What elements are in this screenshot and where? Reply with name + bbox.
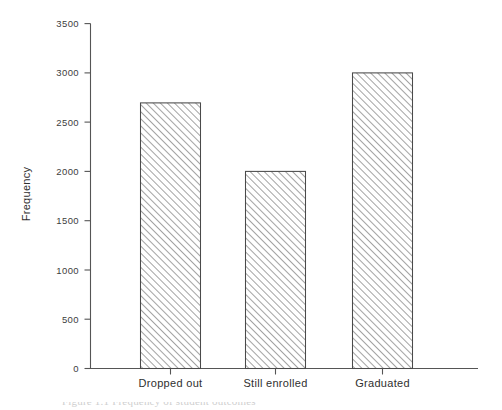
y-axis-ticks	[85, 24, 91, 369]
y-tick-label: 1500	[56, 215, 79, 226]
figure-caption-text: Figure 1.1 Frequency of student outcomes	[62, 402, 256, 407]
figure-caption-clipped: Figure 1.1 Frequency of student outcomes	[0, 402, 502, 410]
y-tick-label: 3500	[56, 18, 79, 29]
y-tick-label: 0	[73, 363, 79, 374]
y-tick-label: 1000	[56, 265, 79, 276]
bar-dropped-out	[141, 103, 201, 369]
x-tick-label: Still enrolled	[243, 377, 307, 389]
y-axis-title: Frequency	[20, 166, 32, 221]
x-axis-ticks	[171, 369, 383, 375]
bar-still-enrolled	[246, 171, 306, 368]
x-tick-label: Graduated	[355, 377, 410, 389]
y-axis-tick-labels: 0 500 1000 1500 2000 2500 3000 3500	[56, 18, 79, 374]
y-tick-label: 500	[62, 314, 79, 325]
x-tick-label: Dropped out	[139, 377, 203, 389]
figure-container: 0 500 1000 1500 2000 2500 3000 3500 Freq…	[0, 0, 502, 410]
y-tick-label: 2000	[56, 166, 79, 177]
y-tick-label: 2500	[56, 117, 79, 128]
x-axis-tick-labels: Dropped out Still enrolled Graduated	[139, 377, 410, 389]
y-tick-label: 3000	[56, 67, 79, 78]
bar-graduated	[353, 73, 413, 369]
bar-chart: 0 500 1000 1500 2000 2500 3000 3500 Freq…	[0, 0, 502, 410]
